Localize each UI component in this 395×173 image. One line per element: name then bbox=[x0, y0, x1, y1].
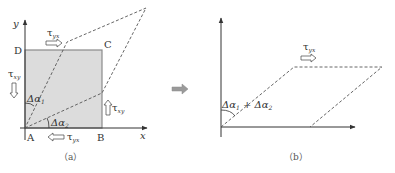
corner-B: B bbox=[97, 132, 104, 143]
angle-sum-label: Δα1 + Δα2 bbox=[221, 99, 273, 111]
arrow-down-icon bbox=[10, 83, 18, 98]
shear-stress-right: τxy bbox=[104, 100, 125, 115]
figure-a: y x D C A B τyx τyx τxy τxy Δα1 Δα2 （a） bbox=[8, 8, 147, 162]
corner-C: C bbox=[104, 39, 112, 50]
svg-text:τyx: τyx bbox=[47, 27, 60, 40]
x-axis-label: x bbox=[140, 130, 146, 141]
figure-b: Δα1 + Δα2 τyx （b） bbox=[221, 18, 382, 162]
corner-A: A bbox=[26, 132, 35, 143]
svg-text:τxy: τxy bbox=[112, 102, 125, 115]
corner-D: D bbox=[14, 45, 22, 56]
svg-text:τyx: τyx bbox=[303, 41, 316, 54]
transition-arrow-icon bbox=[172, 84, 188, 94]
arrow-up-icon bbox=[104, 100, 112, 115]
deformed-element-b bbox=[221, 67, 382, 127]
shear-stress-top: τyx bbox=[46, 27, 62, 47]
shear-strain-figure: y x D C A B τyx τyx τxy τxy Δα1 Δα2 （a） bbox=[0, 0, 395, 173]
shear-stress-bottom: τyx bbox=[48, 131, 80, 144]
shear-stress-left: τxy bbox=[8, 68, 21, 98]
svg-text:τyx: τyx bbox=[67, 131, 80, 144]
arrow-left-icon bbox=[48, 133, 64, 141]
arrow-right-icon bbox=[301, 54, 316, 62]
angle-arc-sum bbox=[221, 110, 235, 116]
y-axis-label: y bbox=[12, 18, 19, 29]
caption-b: （b） bbox=[284, 152, 308, 162]
svg-text:τxy: τxy bbox=[8, 68, 21, 81]
caption-a: （a） bbox=[59, 152, 82, 162]
shear-stress-top-b: τyx bbox=[301, 41, 316, 62]
arrow-right-icon bbox=[46, 39, 62, 47]
